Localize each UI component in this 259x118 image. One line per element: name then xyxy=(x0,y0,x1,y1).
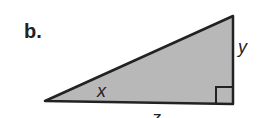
part-label: b. xyxy=(24,20,42,42)
label-y: y xyxy=(236,37,248,57)
right-triangle xyxy=(45,16,233,104)
label-x: x xyxy=(96,81,107,101)
triangle-diagram: b. x y z xyxy=(0,0,259,118)
label-z: z xyxy=(151,108,161,118)
